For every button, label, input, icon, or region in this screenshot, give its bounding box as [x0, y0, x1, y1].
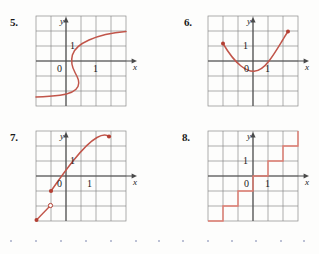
scan-dot	[303, 240, 305, 242]
scan-dot	[255, 240, 257, 242]
x-axis-label: x	[304, 177, 309, 187]
y-unit-label: 1	[243, 40, 248, 51]
endpoint-dot-arc-end	[107, 134, 111, 138]
scan-dot	[158, 240, 160, 242]
origin-label: 0	[57, 63, 62, 74]
scan-artifact-dots	[0, 236, 319, 246]
segment-lower-left	[37, 206, 51, 220]
problem-7-number: 7.	[10, 131, 18, 143]
scan-dot	[85, 240, 87, 242]
scan-dot	[207, 240, 209, 242]
y-axis-label: y	[246, 16, 251, 26]
problem-5-svg: y x 0 1 1	[34, 14, 144, 110]
y-axis-arrow-icon	[250, 17, 255, 22]
problem-6: 6.	[160, 0, 319, 127]
endpoint-dot-segment-start	[35, 218, 39, 222]
scan-dot	[35, 240, 37, 242]
origin-label: 0	[57, 178, 62, 189]
problem-8-graph: y x 0 1 1	[206, 129, 316, 225]
x-unit-label: 1	[265, 63, 270, 74]
y-axis-arrow-icon	[63, 132, 68, 137]
scan-dot	[60, 240, 62, 242]
y-axis-label: y	[59, 16, 64, 26]
problem-7-svg: y x 0 1 1	[34, 129, 144, 225]
figure-page: 5.	[0, 0, 319, 254]
problem-8-number: 8.	[182, 131, 190, 143]
x-axis-label: x	[304, 62, 309, 72]
problem-5-number: 5.	[10, 16, 18, 28]
origin-label: 0	[244, 63, 249, 74]
y-axis-arrow-icon	[250, 132, 255, 137]
x-unit-label: 1	[87, 178, 92, 189]
endpoint-open-circle	[48, 203, 52, 207]
x-axis-label: x	[132, 177, 137, 187]
y-unit-label: 1	[70, 155, 75, 166]
y-axis-label: y	[246, 131, 251, 141]
curve-u-shape	[223, 32, 288, 72]
problem-6-graph: y x 0 1 1	[206, 14, 316, 110]
y-axis-label: y	[59, 131, 64, 141]
scan-dot	[110, 240, 112, 242]
scan-dot	[182, 240, 184, 242]
y-unit-label: 1	[70, 40, 75, 51]
scan-dot	[135, 240, 137, 242]
endpoint-dot-left	[221, 42, 225, 46]
problem-5-graph: y x 0 1 1	[34, 14, 144, 110]
problem-8-svg: y x 0 1 1	[206, 129, 316, 225]
x-axis-label: x	[132, 62, 137, 72]
problem-6-svg: y x 0 1 1	[206, 14, 316, 110]
scan-dot	[231, 240, 233, 242]
problem-5: 5.	[0, 0, 160, 127]
problem-7-graph: y x 0 1 1	[34, 129, 144, 225]
endpoint-dot-right	[286, 30, 290, 34]
problem-8: 8.	[160, 127, 319, 240]
x-unit-label: 1	[265, 178, 270, 189]
problem-7: 7.	[0, 127, 160, 240]
y-unit-label: 1	[243, 155, 248, 166]
scan-dot	[10, 240, 12, 242]
scan-dot	[280, 240, 282, 242]
endpoint-dot-arc-start	[49, 189, 53, 193]
y-axis-arrow-icon	[63, 17, 68, 22]
origin-label: 0	[244, 178, 249, 189]
x-unit-label: 1	[93, 63, 98, 74]
problem-6-number: 6.	[184, 16, 192, 28]
